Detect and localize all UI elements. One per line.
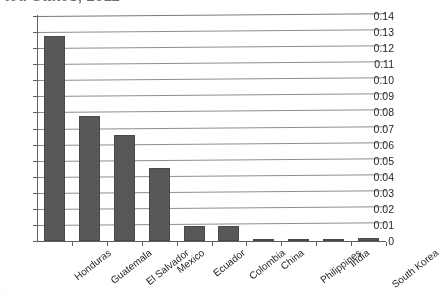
bar: [358, 238, 379, 241]
y-axis-tick-label: 0.10: [362, 75, 394, 85]
x-axis-tick-mark: [72, 242, 73, 246]
y-axis-tick-label: 0.07: [362, 124, 394, 134]
gridline: [37, 13, 386, 17]
bar: [218, 226, 239, 241]
y-axis-tick-label: 0.12: [362, 43, 394, 53]
bar: [253, 239, 274, 241]
y-axis-tick-label: 0.02: [362, 204, 394, 214]
y-axis-tick-label: 0.04: [362, 172, 394, 182]
x-axis-tick-mark: [386, 242, 387, 246]
gridline: [37, 110, 386, 114]
y-axis-tick-label: 0.06: [362, 140, 394, 150]
y-axis-tick-label: 0.13: [362, 27, 394, 37]
bar: [323, 239, 344, 241]
x-axis-tick-mark: [316, 242, 317, 246]
bar: [149, 168, 170, 241]
x-axis-tick-mark: [177, 242, 178, 246]
bar: [288, 239, 309, 241]
y-axis-tick-label: 0.08: [362, 107, 394, 117]
y-axis-tick-label: 0.01: [362, 220, 394, 230]
bar: [114, 135, 135, 241]
bar: [184, 226, 205, 241]
y-axis-tick-label: 0.14: [362, 11, 394, 21]
bar: [44, 36, 65, 241]
x-axis-tick-mark: [142, 242, 143, 246]
x-axis-tick-mark: [107, 242, 108, 246]
y-axis-tick-label: 0.03: [362, 188, 394, 198]
x-axis-tick-mark: [246, 242, 247, 246]
gridline: [37, 29, 386, 33]
y-axis-line: [37, 15, 38, 242]
y-axis-tick-label: 0.09: [362, 91, 394, 101]
x-axis-category-label: South Korea: [389, 247, 440, 290]
gridline: [37, 94, 386, 98]
x-axis-tick-mark: [281, 242, 282, 246]
x-axis-tick-mark: [212, 242, 213, 246]
gridline: [37, 78, 386, 82]
y-axis-tick-label: 0.11: [362, 59, 394, 69]
gridline: [37, 61, 386, 65]
x-axis-category-label: Ecuador: [211, 247, 247, 279]
x-axis-tick-mark: [351, 242, 352, 246]
gridline: [37, 45, 386, 49]
bar: [79, 116, 100, 241]
y-axis-tick-label: 0.05: [362, 156, 394, 166]
